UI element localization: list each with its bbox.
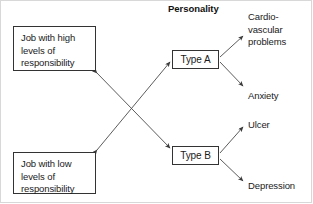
connector-type-b-depression bbox=[220, 159, 243, 181]
diagram-canvas: Personality Job with high levels of resp… bbox=[0, 0, 313, 204]
node-type-b[interactable]: Type B bbox=[172, 146, 219, 165]
node-job-low-responsibility[interactable]: Job with low levels of responsibility bbox=[13, 152, 96, 194]
node-job-high-responsibility[interactable]: Job with high levels of responsibility bbox=[13, 26, 96, 71]
outcome-cardiovascular-problems: Cardio- vascular problems bbox=[248, 11, 310, 49]
node-type-a[interactable]: Type A bbox=[172, 50, 219, 69]
connector-type-b-ulcer bbox=[220, 127, 243, 153]
outcome-ulcer: Ulcer bbox=[248, 119, 310, 132]
outcome-anxiety: Anxiety bbox=[248, 90, 310, 103]
node-type-a-label: Type A bbox=[181, 54, 211, 65]
node-type-b-label: Type B bbox=[180, 150, 211, 161]
personality-heading: Personality bbox=[168, 3, 219, 14]
outcome-depression: Depression bbox=[248, 180, 312, 193]
node-job-high-responsibility-label: Job with high levels of responsibility bbox=[21, 32, 75, 68]
connector-type-a-anxiety bbox=[220, 62, 243, 86]
node-job-low-responsibility-label: Job with low levels of responsibility bbox=[21, 158, 75, 194]
connector-type-a-cardiovascular bbox=[220, 36, 243, 57]
